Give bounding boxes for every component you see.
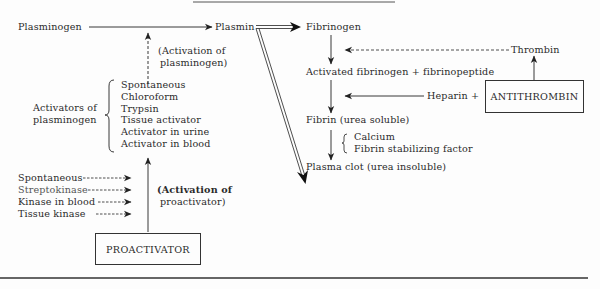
cofactor-item: Fibrin stabilizing factor — [354, 143, 473, 155]
cofactor-item: Calcium — [354, 131, 395, 143]
fibrinolysis-diagram: Plasminogen Plasmin (Activation of plasm… — [0, 0, 600, 289]
activation-of-plasminogen-line2: plasminogen) — [160, 57, 228, 69]
activator-item: Activator in urine — [121, 126, 209, 138]
cofactors-brace — [342, 134, 347, 153]
proactivator-input-item: Spontaneous — [18, 172, 83, 184]
connector-lines — [0, 0, 600, 289]
antithrombin-box: ANTITHROMBIN — [485, 80, 584, 113]
activators-brace — [105, 80, 114, 152]
activator-item: Chloroform — [121, 91, 178, 103]
plasma-clot-label: Plasma clot (urea insoluble) — [306, 161, 446, 173]
activation-of-plasminogen-line1: (Activation of — [158, 45, 225, 57]
activators-group-label-line1: Activators of — [33, 102, 97, 114]
heparin-label: Heparin + — [427, 90, 479, 102]
plasmin-label: Plasmin — [215, 21, 255, 33]
activation-of-proactivator-line1: (Activation of — [157, 184, 232, 196]
activated-fibrinogen-label: Activated fibrinogen + fibrinopeptide — [306, 66, 494, 78]
activator-item: Activator in blood — [121, 138, 211, 150]
thrombin-label: Thrombin — [511, 44, 560, 56]
activators-group-label-line2: plasminogen — [33, 114, 97, 126]
activator-item: Tissue activator — [121, 114, 201, 126]
proactivator-box: PROACTIVATOR — [95, 233, 201, 265]
plasminogen-label: Plasminogen — [18, 21, 82, 33]
fibrinogen-label: Fibrinogen — [306, 21, 361, 33]
activator-item: Spontaneous — [121, 79, 186, 91]
activation-of-proactivator-line2: proactivator) — [160, 196, 226, 208]
double-arrow-plasmin-to-fibrinogen — [290, 22, 301, 32]
fibrin-label: Fibrin (urea soluble) — [306, 114, 409, 126]
proactivator-input-item: Streptokinase — [18, 184, 88, 196]
proactivator-input-item: Tissue kinase — [18, 208, 86, 220]
proactivator-input-item: Kinase in blood — [18, 196, 95, 208]
